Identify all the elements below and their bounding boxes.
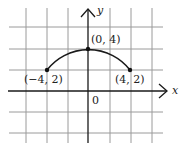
y-axis-label: y [96,4,104,17]
point-right [128,68,132,72]
origin-label: 0 [92,94,99,107]
point-top [86,47,90,51]
y-axis [81,9,95,143]
point-left [45,68,49,72]
label-point-right: (4, 2) [115,73,145,86]
coordinate-plane: (−4, 2) (0, 4) (4, 2) 0 x y [0,0,182,145]
label-point-top: (0, 4) [91,33,121,46]
label-point-left: (−4, 2) [24,73,63,86]
x-axis-label: x [172,84,179,97]
